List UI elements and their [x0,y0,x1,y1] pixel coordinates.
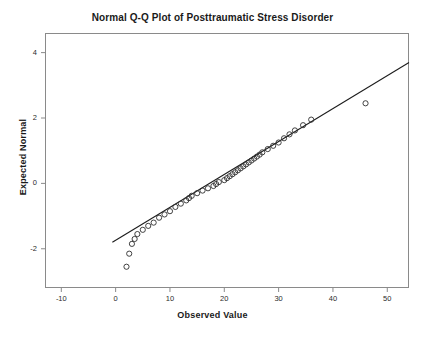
data-point [162,212,167,217]
x-tick-label: -10 [46,294,76,303]
x-axis-title: Observed Value [0,310,425,320]
y-tick-label: -2 [21,244,37,253]
data-point [178,201,183,206]
data-point [200,188,205,193]
x-axis-ticks [61,288,387,292]
x-tick-label: 30 [264,294,294,303]
data-point [129,241,134,246]
data-point [205,186,210,191]
x-tick-label: 0 [101,294,131,303]
qq-plot-figure: Normal Q-Q Plot of Posttraumatic Stress … [0,0,425,339]
y-axis-ticks [41,53,45,249]
y-axis-title: Expected Normal [18,97,28,217]
data-point [140,227,145,232]
x-tick-label: 40 [318,294,348,303]
y-tick-label: 4 [21,48,37,57]
data-point-markers [124,101,368,270]
x-tick-label: 20 [209,294,239,303]
data-point [156,215,161,220]
data-point [151,220,156,225]
data-point [124,264,129,269]
data-point [173,204,178,209]
data-point [135,231,140,236]
data-point [363,101,368,106]
data-point [127,251,132,256]
plot-canvas [0,0,425,339]
data-point [146,223,151,228]
x-tick-label: 10 [155,294,185,303]
data-point [167,209,172,214]
x-tick-label: 50 [372,294,402,303]
data-point [132,236,137,241]
